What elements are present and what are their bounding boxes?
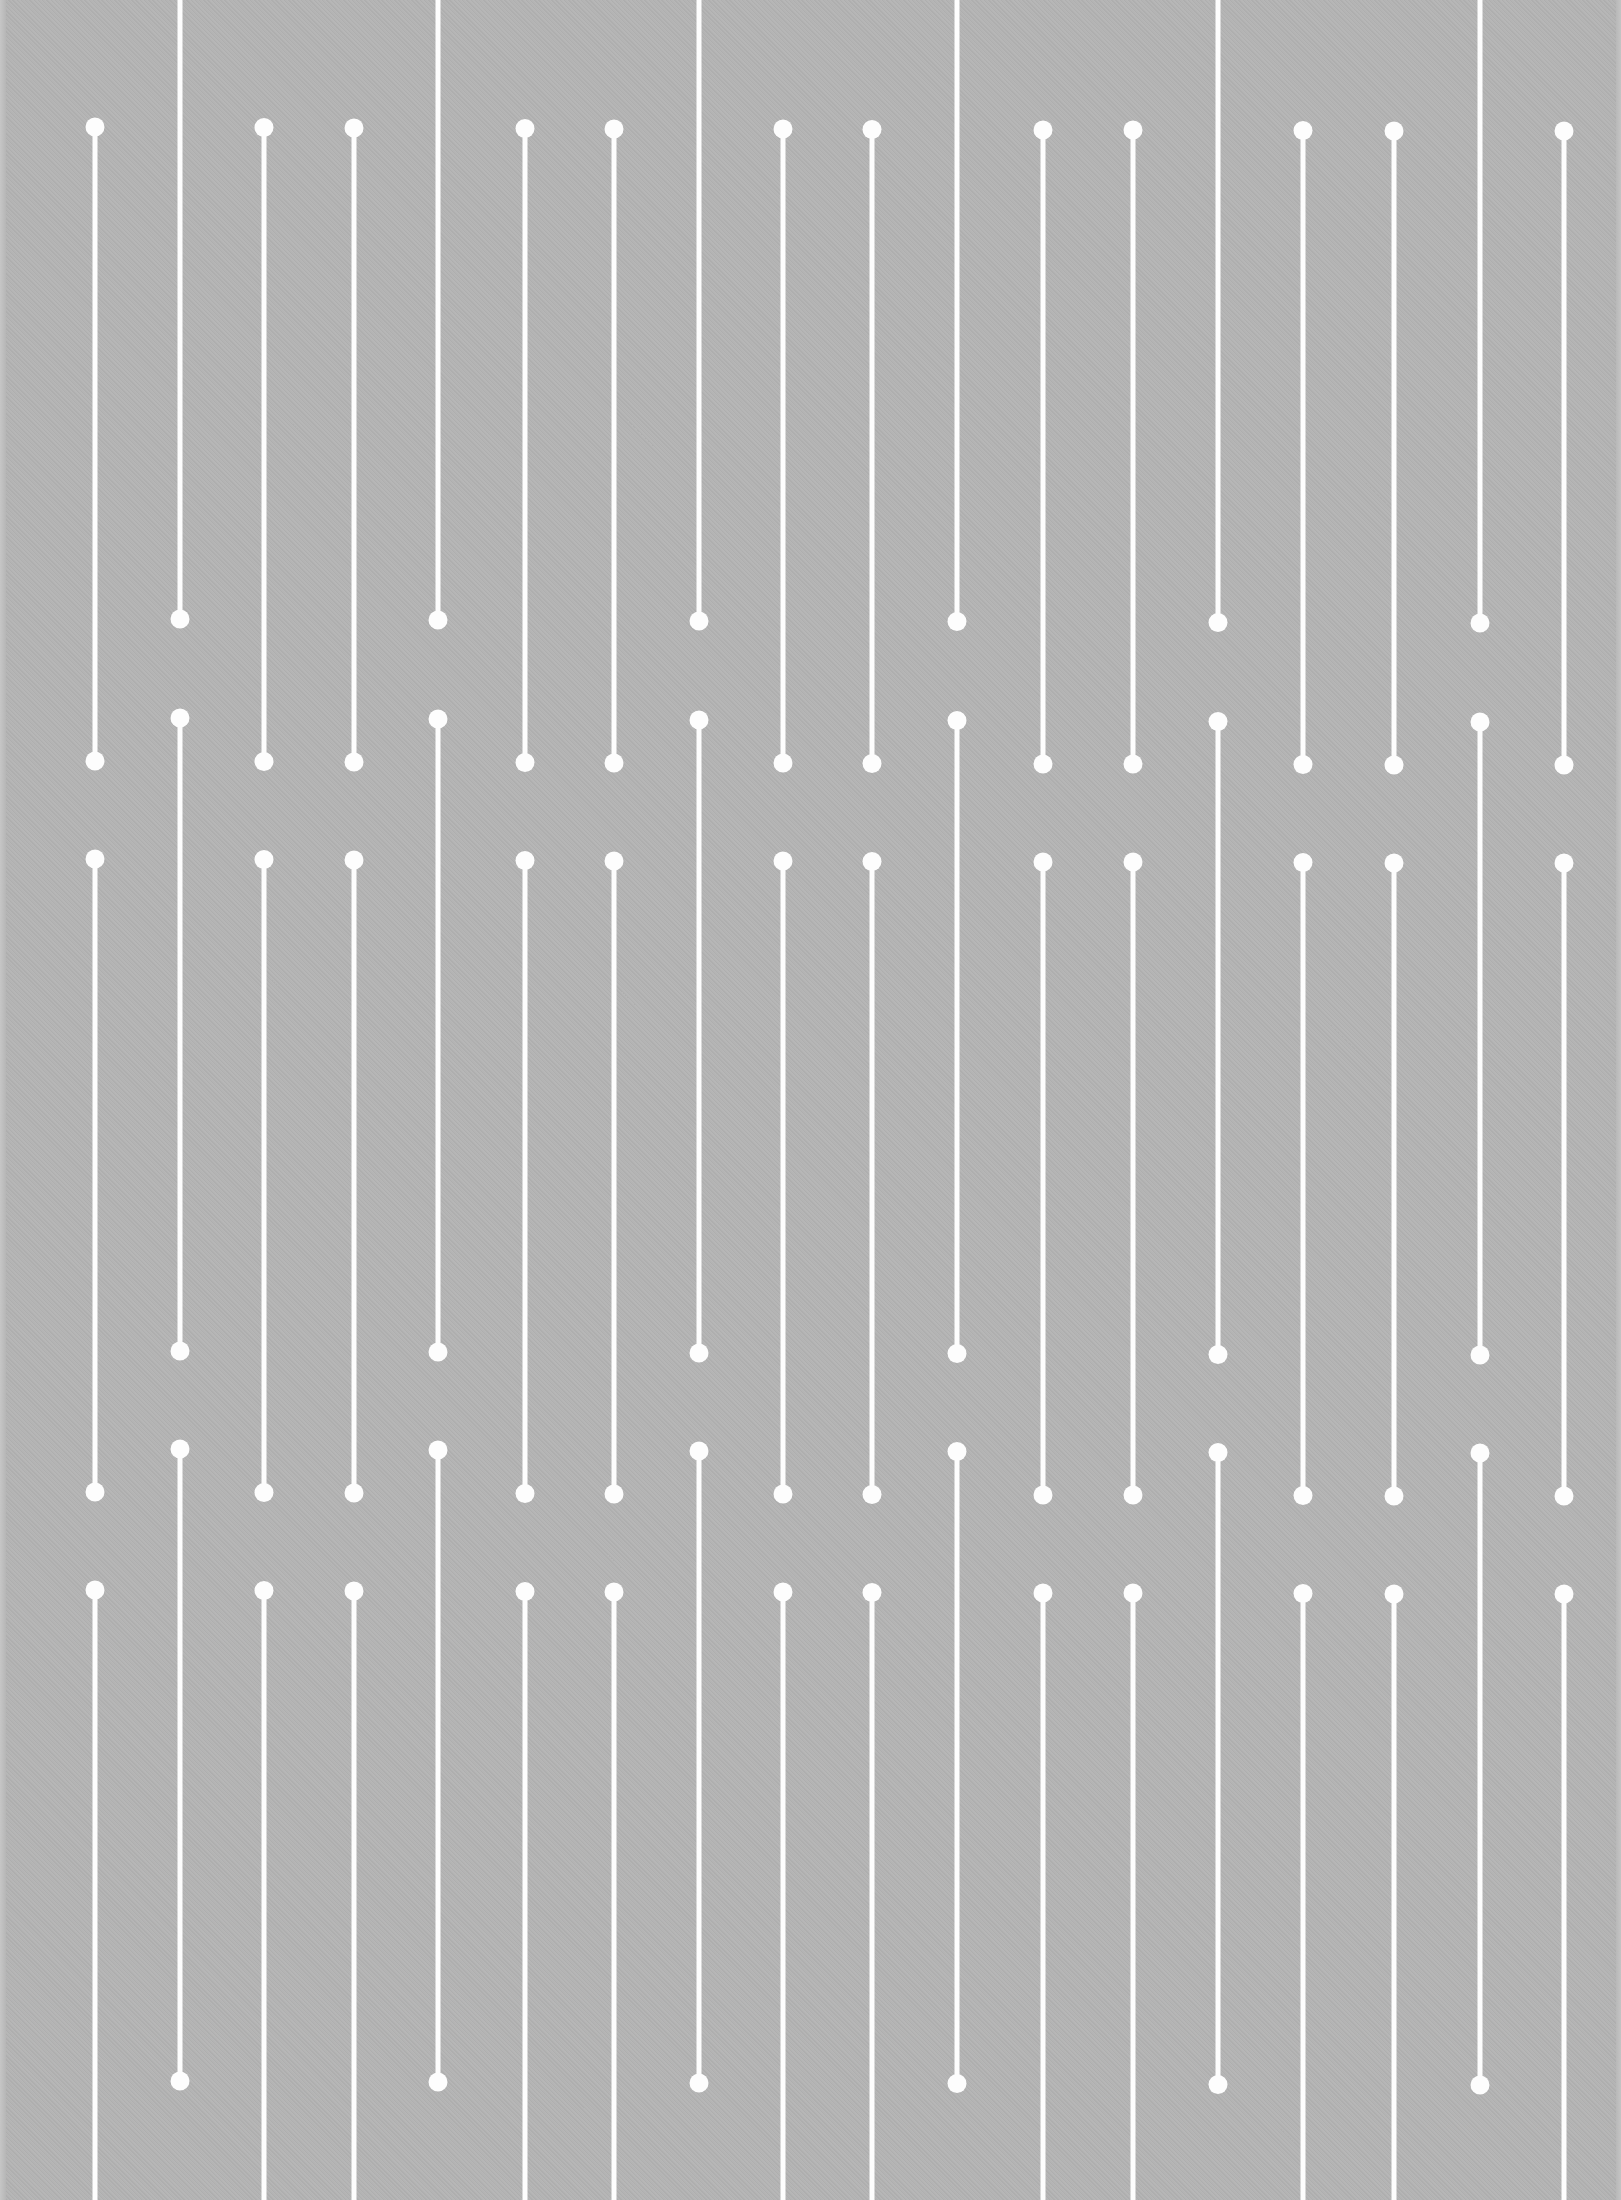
short-pin-bottom-dot (1385, 1487, 1404, 1506)
long-pin-bottom-dot (948, 612, 967, 631)
long-pin-top-dot (1209, 712, 1228, 731)
short-pin-top-dot (1034, 1584, 1053, 1603)
long-pin-top-dot (1471, 1444, 1490, 1463)
short-pin-top-dot (863, 120, 882, 139)
short-pin-top-dot (1124, 853, 1143, 872)
long-pin-bottom-dot (948, 1344, 967, 1363)
short-pin-bottom-dot (255, 1483, 274, 1502)
short-pin-top-dot (345, 1582, 364, 1601)
pin-line-pattern (0, 0, 1621, 2200)
long-pin-bottom-dot (429, 2073, 448, 2092)
long-pin-bottom-dot (171, 2072, 190, 2091)
short-pin-top-dot (605, 852, 624, 871)
short-pin-top-dot (1034, 121, 1053, 140)
long-pin-bottom-dot (690, 612, 709, 631)
short-pin-top-dot (1385, 1585, 1404, 1604)
long-pin-bottom-dot (429, 1343, 448, 1362)
long-pin-bottom-dot (1209, 613, 1228, 632)
short-pin-top-dot (1294, 121, 1313, 140)
long-pin-top-dot (171, 709, 190, 728)
short-pin-top-dot (345, 119, 364, 138)
short-pin-top-dot (86, 850, 105, 869)
long-pin-top-dot (429, 1441, 448, 1460)
short-pin-bottom-dot (1555, 1487, 1574, 1506)
short-pin-bottom-dot (774, 1485, 793, 1504)
short-pin-top-dot (1124, 121, 1143, 140)
short-pin-bottom-dot (863, 1485, 882, 1504)
short-pin-top-dot (1555, 1585, 1574, 1604)
short-pin-top-dot (774, 1583, 793, 1602)
short-pin-top-dot (516, 1582, 535, 1601)
short-pin-bottom-dot (605, 1485, 624, 1504)
long-pin-top-dot (948, 711, 967, 730)
short-pin-top-dot (1294, 853, 1313, 872)
long-pin-top-dot (948, 1442, 967, 1461)
short-pin-top-dot (255, 1581, 274, 1600)
short-pin-bottom-dot (516, 1484, 535, 1503)
long-pin-top-dot (1471, 713, 1490, 732)
short-pin-top-dot (86, 118, 105, 137)
short-pin-bottom-dot (255, 752, 274, 771)
long-pin-bottom-dot (1209, 2075, 1228, 2094)
short-pin-top-dot (255, 850, 274, 869)
short-pin-top-dot (516, 119, 535, 138)
short-pin-bottom-dot (1124, 1486, 1143, 1505)
short-pin-top-dot (1034, 853, 1053, 872)
short-pin-top-dot (1294, 1584, 1313, 1603)
long-pin-bottom-dot (1209, 1345, 1228, 1364)
long-pin-bottom-dot (948, 2074, 967, 2093)
long-pin-bottom-dot (171, 610, 190, 629)
short-pin-bottom-dot (86, 1483, 105, 1502)
short-pin-bottom-dot (605, 754, 624, 773)
short-pin-bottom-dot (1124, 755, 1143, 774)
long-pin-bottom-dot (171, 1342, 190, 1361)
short-pin-top-dot (863, 852, 882, 871)
long-pin-top-dot (171, 1440, 190, 1459)
short-pin-top-dot (774, 852, 793, 871)
short-pin-top-dot (774, 120, 793, 139)
short-pin-top-dot (1385, 122, 1404, 141)
short-pin-bottom-dot (345, 1484, 364, 1503)
long-pin-top-dot (429, 710, 448, 729)
short-pin-top-dot (1555, 122, 1574, 141)
long-pin-bottom-dot (429, 611, 448, 630)
long-pin-top-dot (690, 1442, 709, 1461)
long-pin-bottom-dot (1471, 2076, 1490, 2095)
short-pin-top-dot (605, 120, 624, 139)
short-pin-top-dot (1124, 1584, 1143, 1603)
long-pin-bottom-dot (1471, 1346, 1490, 1365)
pattern-graphic (0, 0, 1621, 2200)
short-pin-bottom-dot (1294, 755, 1313, 774)
short-pin-top-dot (86, 1581, 105, 1600)
short-pin-bottom-dot (516, 753, 535, 772)
short-pin-top-dot (1555, 854, 1574, 873)
long-pin-bottom-dot (690, 1344, 709, 1363)
short-pin-top-dot (863, 1583, 882, 1602)
short-pin-bottom-dot (345, 753, 364, 772)
short-pin-top-dot (1385, 854, 1404, 873)
short-pin-bottom-dot (1034, 1486, 1053, 1505)
long-pin-bottom-dot (1471, 614, 1490, 633)
short-pin-bottom-dot (86, 752, 105, 771)
short-pin-top-dot (255, 118, 274, 137)
long-pin-bottom-dot (690, 2074, 709, 2093)
long-pin-top-dot (1209, 1443, 1228, 1462)
short-pin-bottom-dot (863, 754, 882, 773)
short-pin-bottom-dot (1555, 756, 1574, 775)
long-pin-top-dot (690, 711, 709, 730)
short-pin-top-dot (516, 851, 535, 870)
short-pin-bottom-dot (1385, 756, 1404, 775)
short-pin-bottom-dot (774, 754, 793, 773)
short-pin-top-dot (605, 1583, 624, 1602)
short-pin-bottom-dot (1294, 1486, 1313, 1505)
short-pin-top-dot (345, 851, 364, 870)
short-pin-bottom-dot (1034, 755, 1053, 774)
